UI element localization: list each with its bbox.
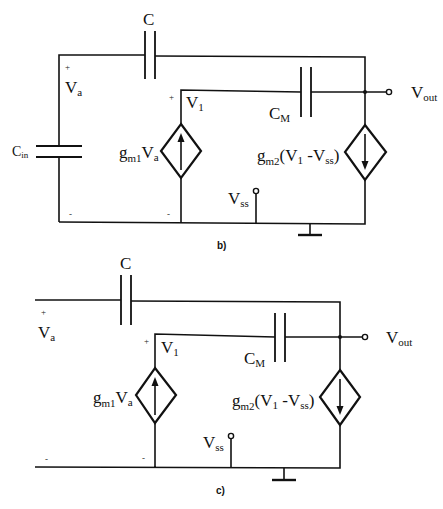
label-gm1va: gm1Va (119, 143, 159, 164)
caption-c: c) (216, 485, 225, 496)
vss-terminal (253, 188, 258, 193)
label-gm1va: gm1Va (93, 388, 133, 409)
label-c: C (120, 254, 131, 273)
label-va: Va (65, 78, 82, 98)
label-vout: Vout (386, 328, 412, 348)
dependent-current-source-1 (136, 368, 176, 423)
wire-bottom (59, 178, 365, 224)
label-vout: Vout (411, 83, 437, 103)
label-vss: Vss (228, 189, 249, 209)
label-va: Va (38, 323, 55, 343)
circuit-figure: C + Va + V1 CM Cin gm1Va gm2(V1 -Vss) Vo… (0, 0, 443, 509)
label-cin: Cin (12, 144, 29, 160)
junction-dot (363, 90, 367, 94)
label-gm2: gm2(V1 -Vss) (257, 146, 339, 167)
v1-minus: - (142, 453, 145, 463)
va-plus: + (41, 307, 46, 317)
wire-bottom (35, 423, 340, 468)
vss-terminal (228, 433, 233, 438)
circuit-c: C + Va + V1 CM gm1Va gm2(V1 -Vss) Vout V… (35, 254, 412, 496)
circuit-b: C + Va + V1 CM Cin gm1Va gm2(V1 -Vss) Vo… (12, 10, 437, 251)
label-cm: CM (269, 104, 290, 124)
label-gm2: gm2(V1 -Vss) (232, 391, 314, 412)
vout-terminal (362, 334, 367, 339)
v1-plus: + (169, 92, 174, 102)
va-minus: - (69, 209, 72, 219)
va-minus: - (45, 454, 48, 464)
va-plus: + (65, 62, 70, 72)
label-vss: Vss (203, 433, 224, 453)
label-cm: CM (244, 349, 265, 369)
label-c: C (143, 10, 154, 29)
label-v1: V1 (161, 338, 179, 358)
label-v1: V1 (186, 93, 204, 113)
vout-terminal (386, 89, 391, 94)
caption-b: b) (217, 240, 226, 251)
v1-plus: + (144, 336, 149, 346)
v1-minus: - (167, 209, 170, 219)
junction-dot (338, 335, 342, 339)
